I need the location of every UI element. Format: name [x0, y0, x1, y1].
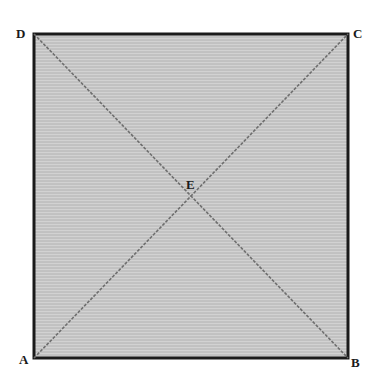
square-diagonals-diagram: D C A B E — [0, 0, 385, 382]
center-label-e: E — [186, 177, 195, 192]
vertex-label-c: C — [353, 26, 362, 41]
vertex-label-b: B — [351, 355, 360, 370]
vertex-label-d: D — [16, 26, 25, 41]
vertex-label-a: A — [19, 352, 29, 367]
